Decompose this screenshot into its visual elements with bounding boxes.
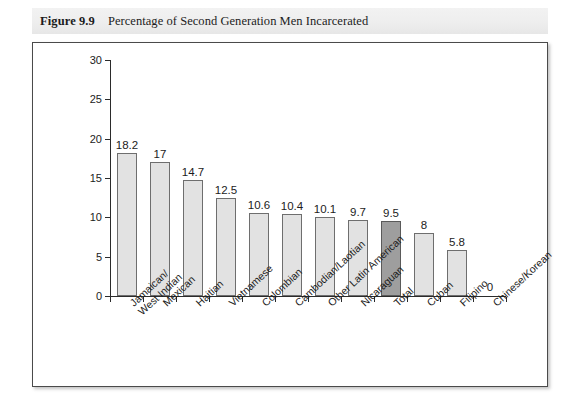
bar-value-label: 10.4: [281, 200, 303, 212]
bar-value-label: 18.2: [116, 139, 138, 151]
bar-value-label: 10.6: [248, 199, 270, 211]
bar-value-label: 9.5: [383, 207, 399, 219]
y-axis-tick-label: 20: [78, 131, 102, 147]
bar-value-label: 10.1: [314, 203, 336, 215]
bar-value-label: 5.8: [449, 236, 465, 248]
y-axis-tick-label: 5: [78, 249, 102, 265]
y-axis-tick-label: 25: [78, 91, 102, 107]
figure-caption-band: Figure 9.9 Percentage of Second Generati…: [32, 8, 548, 34]
y-axis-line: [110, 60, 111, 296]
bar-chart-plot-area: 051015202530 18.21714.712.510.610.410.19…: [110, 60, 506, 296]
bar-value-label: 17: [154, 148, 167, 160]
y-axis-tick-mark: [105, 139, 110, 140]
bar-value-label: 14.7: [182, 166, 204, 178]
y-axis-tick-mark: [105, 178, 110, 179]
y-axis-tick-mark: [105, 60, 110, 61]
bar-value-label: 8: [421, 219, 427, 231]
y-axis-tick-label: 10: [78, 209, 102, 225]
x-axis-tick-mark: [110, 297, 111, 302]
bar-cuban[interactable]: 8: [414, 233, 434, 296]
figure-title: Percentage of Second Generation Men Inca…: [108, 14, 368, 29]
figure-number-label: Figure 9.9: [40, 14, 95, 29]
y-axis-tick-label: 0: [78, 288, 102, 304]
bar-jamaican-west-indian[interactable]: 18.2: [117, 153, 137, 296]
y-axis-tick-label: 15: [78, 170, 102, 186]
y-axis-tick-mark: [105, 99, 110, 100]
y-axis-tick-mark: [105, 217, 110, 218]
y-axis-tick-label: 30: [78, 52, 102, 68]
y-axis-tick-mark: [105, 257, 110, 258]
bar-value-label: 12.5: [215, 184, 237, 196]
bar-value-label: 9.7: [350, 206, 366, 218]
